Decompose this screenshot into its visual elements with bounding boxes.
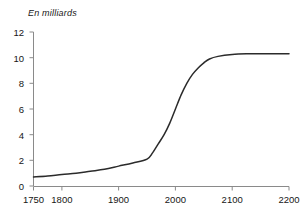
x-tick-label-2000: 2000 [155,194,195,205]
x-tick-label-1900: 1900 [99,194,139,205]
y-tick-label-12: 12 [2,27,24,38]
plot-area [0,0,301,218]
y-tick-label-2: 2 [2,155,24,166]
y-tick-label-8: 8 [2,78,24,89]
data-series-line [34,54,290,177]
x-tick-label-1800: 1800 [42,194,82,205]
population-growth-chart: En milliards 12 10 8 6 4 2 [0,0,301,218]
y-axis-ticks [30,32,34,186]
x-tick-label-2100: 2100 [212,194,252,205]
x-axis-ticks [34,187,290,191]
x-tick-label-2200: 2200 [269,194,301,205]
y-tick-label-10: 10 [2,53,24,64]
y-tick-label-4: 4 [2,130,24,141]
y-tick-label-0: 0 [2,181,24,192]
y-tick-label-6: 6 [2,104,24,115]
